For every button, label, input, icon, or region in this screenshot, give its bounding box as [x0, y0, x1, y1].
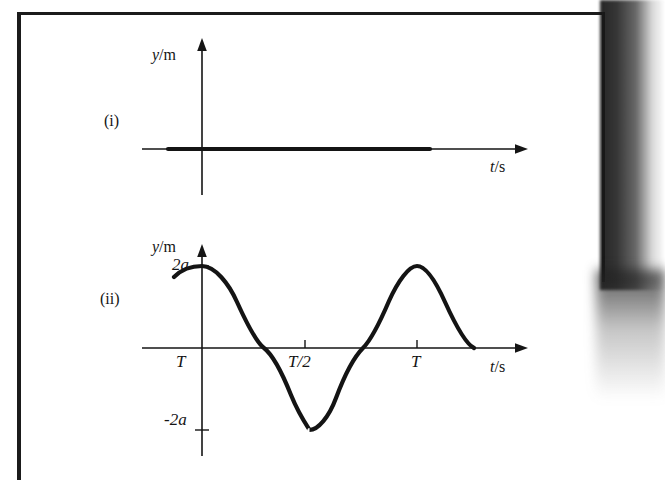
graph-i-y-axis-arrowhead: [197, 38, 207, 51]
graph-ii-plot: [130, 240, 540, 462]
graph-ii-x-axis-arrowhead: [515, 343, 528, 353]
panel-label-ii: (ii): [100, 290, 120, 308]
page-border-top: [17, 12, 605, 15]
page-border-left: [17, 12, 21, 480]
graph-ii-y-axis-arrowhead: [197, 244, 207, 257]
graph-i-plot: [130, 35, 540, 195]
scan-edge-shadow: [600, 0, 665, 290]
graph-i-x-axis-arrowhead: [515, 144, 528, 154]
scanned-figure-page: (i) y/m t/s (ii) y/m 2a -2a T T/2 T t/s: [0, 0, 665, 484]
panel-label-i: (i): [104, 112, 119, 130]
scan-edge-shadow-soft: [596, 270, 665, 400]
